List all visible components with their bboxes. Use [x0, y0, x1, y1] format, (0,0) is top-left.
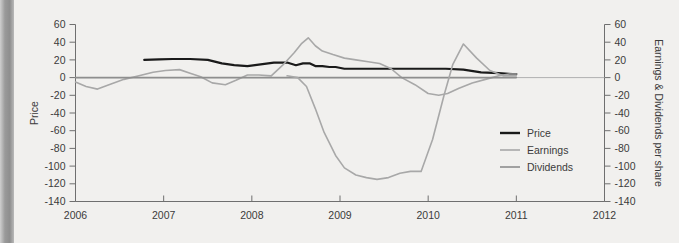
y-axis-left-tick-label: 0: [60, 71, 66, 83]
y-axis-right-tick-label: 40: [615, 36, 627, 48]
y-axis-left-tick-label: -60: [50, 124, 65, 136]
x-axis-tick-label: 2009: [328, 209, 352, 221]
series-line-earningsdip: [287, 44, 516, 179]
x-axis-tick-label: 2007: [152, 209, 176, 221]
y-axis-right-tick-label: -40: [615, 107, 630, 119]
x-axis-tick-label: 2012: [593, 209, 617, 221]
legend-label-earnings: Earnings: [527, 144, 568, 156]
y-axis-right-tick-label: -20: [615, 89, 630, 101]
x-axis-tick-label: 2010: [416, 209, 440, 221]
y-axis-left-tick-label: -40: [50, 107, 65, 119]
y-axis-left-tick-label: -20: [50, 89, 65, 101]
y-axis-left-tick-label: -100: [44, 160, 65, 172]
y-axis-left-tick-label: 60: [54, 18, 66, 30]
x-axis-tick-label: 2006: [64, 209, 88, 221]
chart-figure: 6040200-20-40-60-80-100-120-140Price6040…: [0, 0, 679, 243]
y-axis-right-tick-label: 20: [615, 54, 627, 66]
x-axis-tick-label: 2011: [505, 209, 528, 221]
line-chart: 6040200-20-40-60-80-100-120-140Price6040…: [0, 0, 679, 243]
y-axis-left-tick-label: -140: [44, 195, 65, 207]
y-axis-right-title: Earnings & Dividends per share: [653, 39, 665, 187]
y-axis-right-tick-label: -120: [615, 177, 636, 189]
x-axis-tick-label: 2008: [240, 209, 264, 221]
legend-label-dividends: Dividends: [527, 161, 573, 173]
y-axis-left-title: Price: [28, 101, 40, 125]
y-axis-right-tick-label: -60: [615, 124, 630, 136]
y-axis-right-tick-label: -100: [615, 160, 636, 172]
legend-label-price: Price: [527, 127, 551, 139]
series-line-earnings: [76, 38, 517, 96]
y-axis-left-tick-label: 40: [54, 36, 66, 48]
y-axis-right-tick-label: -80: [615, 142, 630, 154]
y-axis-right-tick-label: 0: [615, 71, 621, 83]
y-axis-left-tick-label: 20: [54, 54, 66, 66]
series-line-price: [144, 59, 516, 74]
y-axis-left-tick-label: -80: [50, 142, 65, 154]
y-axis-right-tick-label: -140: [615, 195, 636, 207]
y-axis-left-tick-label: -120: [44, 177, 65, 189]
y-axis-right-tick-label: 60: [615, 18, 627, 30]
